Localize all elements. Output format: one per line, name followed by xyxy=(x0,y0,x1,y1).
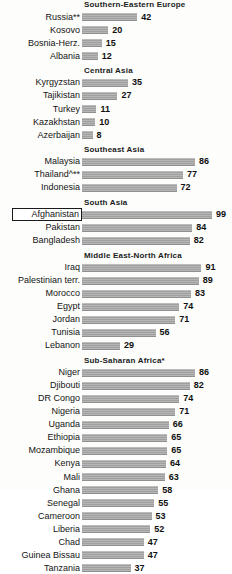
bar-value-label: 29 xyxy=(124,340,134,351)
bar xyxy=(82,303,179,311)
bar-value-label: 86 xyxy=(199,367,209,378)
bar-row-label: Djibouti xyxy=(0,380,80,391)
bar-row: Tanzania37 xyxy=(0,563,232,574)
bar-row: Russia**42 xyxy=(0,12,232,23)
bar xyxy=(82,316,175,324)
bar-row: Niger86 xyxy=(0,367,232,378)
bar-value-label: 47 xyxy=(148,537,158,548)
bar-value-label: 27 xyxy=(121,90,131,101)
bar-row: Lebanon29 xyxy=(0,340,232,351)
bar-row: Ethiopia65 xyxy=(0,432,232,443)
bar-row: Chad47 xyxy=(0,537,232,548)
bar xyxy=(82,13,137,21)
bar-row-label: Kenya xyxy=(0,458,80,469)
bar xyxy=(82,564,131,572)
bar-row-label: Niger xyxy=(0,367,80,378)
bar-value-label: 74 xyxy=(183,301,193,312)
bar-value-label: 64 xyxy=(170,458,180,469)
bar-value-label: 11 xyxy=(100,104,110,115)
bar-row-label: Mozambique xyxy=(0,445,80,456)
bar xyxy=(82,329,156,337)
bar-value-label: 12 xyxy=(102,51,112,62)
bar-value-label: 52 xyxy=(154,524,164,535)
bar-value-label: 47 xyxy=(148,550,158,561)
bar xyxy=(82,237,190,245)
bar-value-label: 86 xyxy=(199,156,209,167)
bar-row-label: Malaysia xyxy=(0,156,80,167)
bar-row: Palestinian terr.89 xyxy=(0,275,232,286)
bar xyxy=(82,369,195,377)
bar-row: Egypt74 xyxy=(0,301,232,312)
bar xyxy=(82,382,190,390)
section-header: Middle East-North Africa xyxy=(84,251,182,260)
bar-row: Nigeria71 xyxy=(0,406,232,417)
bar-row-label: Russia** xyxy=(0,12,80,23)
bar-row: Cameroon53 xyxy=(0,511,232,522)
bar-row-label: Lebanon xyxy=(0,340,80,351)
bar-row-label: Thailand^** xyxy=(0,169,80,180)
bar xyxy=(82,184,177,192)
bar xyxy=(82,79,128,87)
bar-row: Kazakhstan10 xyxy=(0,117,232,128)
bar-row: Iraq91 xyxy=(0,262,232,273)
bar-value-label: 83 xyxy=(195,288,205,299)
bar-row: Thailand^**77 xyxy=(0,169,232,180)
bar-row-label: Palestinian terr. xyxy=(0,275,80,286)
bar-row: Mozambique65 xyxy=(0,445,232,456)
bar xyxy=(82,473,165,481)
bar-value-label: 91 xyxy=(205,262,215,273)
bar-row: Albania12 xyxy=(0,51,232,62)
bar-row-label: Ethiopia xyxy=(0,432,80,443)
bar xyxy=(82,224,192,232)
bar xyxy=(82,290,191,298)
bar-row-label: Afghanistan xyxy=(12,208,82,221)
bar-row: Uganda66 xyxy=(0,419,232,430)
bar-row-label: DR Congo xyxy=(0,393,80,404)
bar-row-label: Chad xyxy=(0,537,80,548)
bar-value-label: 10 xyxy=(99,117,109,128)
bar-row: Afghanistan99 xyxy=(0,209,232,220)
bar-value-label: 71 xyxy=(179,314,189,325)
bar-row-label: Liberia xyxy=(0,524,80,535)
bar xyxy=(82,26,108,34)
bar-row: Djibouti82 xyxy=(0,380,232,391)
bar-row-label: Guinea Bissau xyxy=(0,550,80,561)
bar-row-label: Turkey xyxy=(0,104,80,115)
bar-row: Senegal55 xyxy=(0,498,232,509)
bar-row: Mali63 xyxy=(0,472,232,483)
bar-value-label: 42 xyxy=(141,12,151,23)
bar-row: Kyrgyzstan35 xyxy=(0,77,232,88)
bar xyxy=(82,211,212,219)
bar xyxy=(82,551,144,559)
bar-row-label: Pakistan xyxy=(0,222,80,233)
bar-row-label: Kazakhstan xyxy=(0,117,80,128)
bar-row: DR Congo74 xyxy=(0,393,232,404)
bar-row: Malaysia86 xyxy=(0,156,232,167)
section-header: South Asia xyxy=(84,198,127,207)
bar-row: Bangladesh82 xyxy=(0,235,232,246)
bar xyxy=(82,277,199,285)
bar-row-label: Albania xyxy=(0,51,80,62)
bar-value-label: 89 xyxy=(203,275,213,286)
bar-value-label: 63 xyxy=(169,472,179,483)
bar xyxy=(82,131,93,139)
bar xyxy=(82,92,117,100)
bar-row-label: Tanzania xyxy=(0,563,80,574)
bar-row-label: Iraq xyxy=(0,262,80,273)
bar xyxy=(82,118,95,126)
bar xyxy=(82,512,152,520)
bar-value-label: 82 xyxy=(194,380,204,391)
bar xyxy=(82,447,167,455)
bar xyxy=(82,39,102,47)
bar-row: Kosovo20 xyxy=(0,25,232,36)
bar-row: Jordan71 xyxy=(0,314,232,325)
bar-row-label: Indonesia xyxy=(0,182,80,193)
bar-value-label: 58 xyxy=(162,485,172,496)
bar-value-label: 37 xyxy=(135,563,145,574)
bar-row: Morocco83 xyxy=(0,288,232,299)
bar xyxy=(82,499,154,507)
bar xyxy=(82,538,144,546)
bar-row-label: Ghana xyxy=(0,485,80,496)
bar-row: Guinea Bissau47 xyxy=(0,550,232,561)
